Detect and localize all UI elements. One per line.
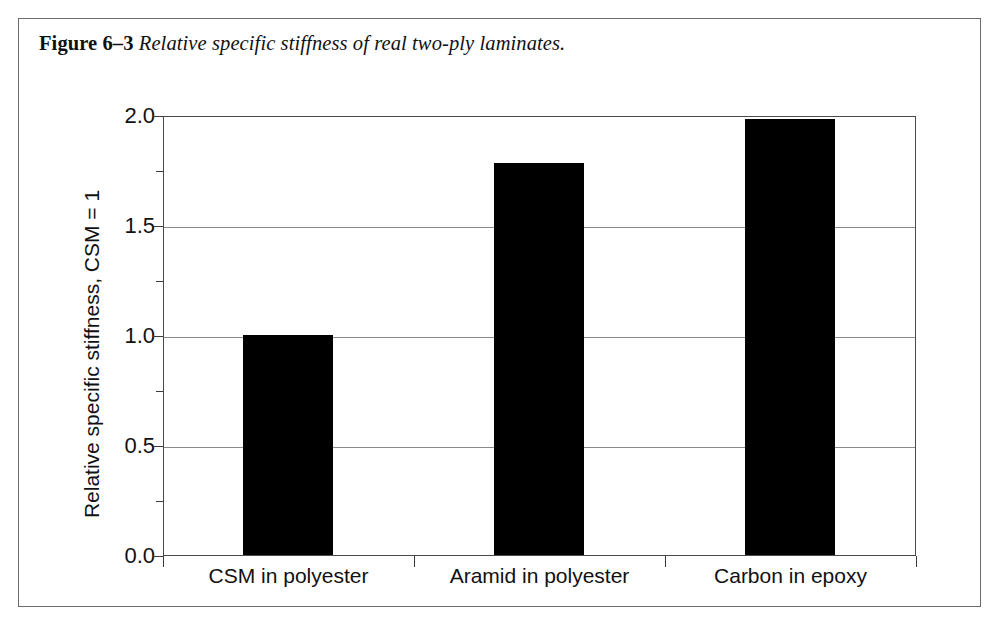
bar: [243, 335, 333, 555]
y-axis-tick-label: 1.5: [85, 213, 155, 239]
bar: [745, 119, 835, 555]
plot-area: [163, 116, 916, 556]
bar: [494, 163, 584, 555]
figure-frame: Figure 6–3 Relative specific stiffness o…: [18, 18, 981, 607]
y-axis-tick-labels: 0.00.51.01.52.0: [77, 116, 155, 556]
y-axis-tick-label: 0.5: [85, 433, 155, 459]
x-axis-category-label: CSM in polyester: [163, 564, 414, 588]
x-axis-category-label: Aramid in polyester: [414, 564, 665, 588]
y-axis-tick-label: 2.0: [85, 103, 155, 129]
figure-caption-text: Relative specific stiffness of real two-…: [134, 32, 566, 54]
x-axis-tick: [916, 556, 917, 567]
y-axis-tick-label: 0.0: [85, 543, 155, 569]
x-axis-category-label: Carbon in epoxy: [665, 564, 916, 588]
figure-caption-label: Figure 6–3: [39, 32, 134, 54]
bar-chart: Relative specific stiffness, CSM = 1 0.0…: [19, 64, 982, 604]
y-axis-tick-label: 1.0: [85, 323, 155, 349]
figure-caption: Figure 6–3 Relative specific stiffness o…: [39, 32, 565, 55]
